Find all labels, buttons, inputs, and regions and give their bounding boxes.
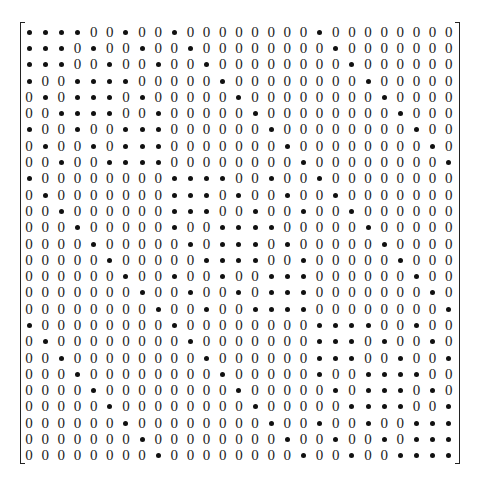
zero-entry: 0 bbox=[392, 171, 408, 187]
zero-entry: 0 bbox=[102, 220, 118, 236]
zero-entry: 0 bbox=[231, 268, 247, 284]
zero-entry: 0 bbox=[53, 366, 69, 382]
zero-entry: 0 bbox=[69, 203, 85, 219]
zero-entry: 0 bbox=[69, 187, 85, 203]
zero-entry: 0 bbox=[166, 236, 182, 252]
dot-entry bbox=[134, 89, 150, 105]
dot-entry bbox=[328, 350, 344, 366]
zero-entry: 0 bbox=[425, 154, 441, 170]
zero-entry: 0 bbox=[279, 57, 295, 73]
dot-entry bbox=[425, 138, 441, 154]
dot-entry bbox=[134, 122, 150, 138]
zero-entry: 0 bbox=[295, 138, 311, 154]
zero-entry: 0 bbox=[166, 399, 182, 415]
zero-entry: 0 bbox=[376, 171, 392, 187]
zero-entry: 0 bbox=[150, 236, 166, 252]
zero-entry: 0 bbox=[86, 154, 102, 170]
zero-entry: 0 bbox=[360, 89, 376, 105]
zero-entry: 0 bbox=[312, 399, 328, 415]
zero-entry: 0 bbox=[231, 122, 247, 138]
zero-entry: 0 bbox=[231, 366, 247, 382]
dot-entry bbox=[166, 317, 182, 333]
zero-entry: 0 bbox=[21, 399, 37, 415]
dot-entry bbox=[134, 138, 150, 154]
zero-entry: 0 bbox=[279, 317, 295, 333]
zero-entry: 0 bbox=[150, 220, 166, 236]
dot-entry bbox=[408, 122, 424, 138]
dot-entry bbox=[279, 285, 295, 301]
zero-entry: 0 bbox=[37, 448, 53, 464]
zero-entry: 0 bbox=[150, 350, 166, 366]
zero-entry: 0 bbox=[182, 105, 198, 121]
dot-entry bbox=[425, 285, 441, 301]
zero-entry: 0 bbox=[425, 203, 441, 219]
zero-entry: 0 bbox=[199, 366, 215, 382]
zero-entry: 0 bbox=[215, 285, 231, 301]
zero-entry: 0 bbox=[53, 383, 69, 399]
zero-entry: 0 bbox=[53, 138, 69, 154]
zero-entry: 0 bbox=[199, 40, 215, 56]
zero-entry: 0 bbox=[344, 73, 360, 89]
dot-entry bbox=[231, 285, 247, 301]
zero-entry: 0 bbox=[392, 285, 408, 301]
zero-entry: 0 bbox=[37, 317, 53, 333]
zero-entry: 0 bbox=[199, 122, 215, 138]
zero-entry: 0 bbox=[295, 24, 311, 40]
zero-entry: 0 bbox=[247, 366, 263, 382]
zero-entry: 0 bbox=[279, 122, 295, 138]
dot-entry bbox=[408, 268, 424, 284]
zero-entry: 0 bbox=[199, 399, 215, 415]
dot-entry bbox=[150, 154, 166, 170]
zero-entry: 0 bbox=[425, 366, 441, 382]
dot-entry bbox=[263, 415, 279, 431]
dot-entry bbox=[53, 105, 69, 121]
zero-entry: 0 bbox=[69, 383, 85, 399]
zero-entry: 0 bbox=[279, 366, 295, 382]
zero-entry: 0 bbox=[150, 268, 166, 284]
zero-entry: 0 bbox=[295, 220, 311, 236]
zero-entry: 0 bbox=[37, 383, 53, 399]
zero-entry: 0 bbox=[86, 268, 102, 284]
dot-entry bbox=[312, 317, 328, 333]
zero-entry: 0 bbox=[425, 220, 441, 236]
dot-entry bbox=[21, 24, 37, 40]
dot-entry bbox=[215, 366, 231, 382]
zero-entry: 0 bbox=[279, 220, 295, 236]
dot-entry bbox=[69, 122, 85, 138]
zero-entry: 0 bbox=[86, 448, 102, 464]
dot-entry bbox=[182, 203, 198, 219]
zero-entry: 0 bbox=[134, 366, 150, 382]
dot-entry bbox=[344, 350, 360, 366]
zero-entry: 0 bbox=[231, 399, 247, 415]
zero-entry: 0 bbox=[376, 285, 392, 301]
zero-entry: 0 bbox=[247, 350, 263, 366]
zero-entry: 0 bbox=[215, 301, 231, 317]
zero-entry: 0 bbox=[247, 431, 263, 447]
zero-entry: 0 bbox=[231, 138, 247, 154]
zero-entry: 0 bbox=[118, 220, 134, 236]
zero-entry: 0 bbox=[215, 154, 231, 170]
zero-entry: 0 bbox=[360, 154, 376, 170]
dot-entry bbox=[328, 431, 344, 447]
zero-entry: 0 bbox=[199, 73, 215, 89]
dot-entry bbox=[312, 366, 328, 382]
zero-entry: 0 bbox=[150, 171, 166, 187]
zero-entry: 0 bbox=[328, 105, 344, 121]
zero-entry: 0 bbox=[408, 89, 424, 105]
zero-entry: 0 bbox=[21, 154, 37, 170]
zero-entry: 0 bbox=[408, 334, 424, 350]
dot-entry bbox=[392, 105, 408, 121]
zero-entry: 0 bbox=[215, 24, 231, 40]
dot-entry bbox=[344, 317, 360, 333]
zero-entry: 0 bbox=[134, 448, 150, 464]
zero-entry: 0 bbox=[215, 40, 231, 56]
dot-entry bbox=[199, 301, 215, 317]
zero-entry: 0 bbox=[408, 301, 424, 317]
dot-entry bbox=[118, 24, 134, 40]
zero-entry: 0 bbox=[295, 73, 311, 89]
zero-entry: 0 bbox=[360, 448, 376, 464]
zero-entry: 0 bbox=[295, 415, 311, 431]
zero-entry: 0 bbox=[376, 122, 392, 138]
zero-entry: 0 bbox=[37, 122, 53, 138]
zero-entry: 0 bbox=[328, 236, 344, 252]
